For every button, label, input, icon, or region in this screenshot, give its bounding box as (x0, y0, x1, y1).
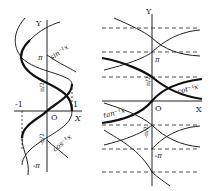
arccos-branch-upper (30, 22, 60, 40)
right-origin-label: O (155, 104, 162, 113)
left-tick-neg-pi-half: -π/2 (38, 133, 45, 145)
left-tick-neg1: -1 (15, 100, 23, 109)
left-origin-label: O (51, 113, 58, 122)
right-tick-neg-pi-half: -π/2 (142, 126, 149, 138)
right-tick-pi-half: π/2 (144, 76, 151, 86)
left-tick-pos1: 1 (73, 100, 78, 109)
right-x-label: X (196, 105, 202, 114)
left-x-label: X (74, 114, 81, 123)
right-plot: Y X O π π/2 -π/2 -π tan⁻¹x cot⁻¹x (102, 7, 202, 186)
diagram-canvas: Y X O -1 1 π π/2 -π/2 -π sin⁻¹x cos⁻¹x (0, 0, 216, 191)
left-tick-neg-pi: -π (33, 162, 40, 170)
left-tick-pi: π (37, 54, 43, 62)
right-tick-neg-pi: -π (155, 152, 162, 160)
left-tick-pi-half: π/2 (38, 82, 45, 92)
arcsin-label: sin⁻¹x (49, 43, 71, 62)
right-tick-pi: π (154, 56, 160, 64)
arctan-hidden (104, 149, 152, 168)
right-y-label: Y (145, 7, 152, 16)
left-plot: Y X O -1 1 π π/2 -π/2 -π sin⁻¹x cos⁻¹x (14, 18, 82, 175)
right-asymptotes (102, 28, 200, 172)
arccos-label: cos⁻¹x (51, 133, 73, 153)
left-y-label: Y (35, 19, 42, 28)
arccot-branch-top (114, 18, 200, 56)
